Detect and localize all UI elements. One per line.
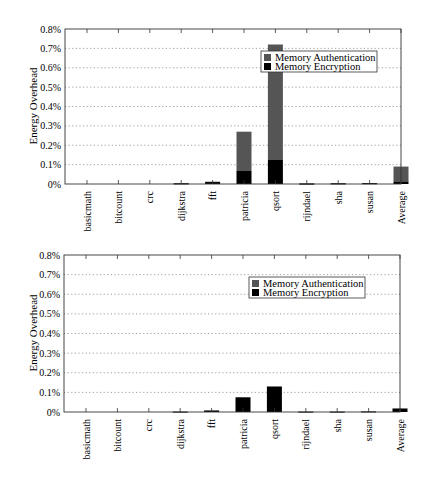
x-category-label: sha bbox=[332, 418, 343, 432]
x-category-label: bitcount bbox=[112, 419, 123, 452]
legend-label: Memory Encryption bbox=[263, 287, 349, 298]
x-category-label: crc bbox=[143, 418, 154, 431]
legend: Memory AuthenticationMemory Encryption bbox=[249, 277, 365, 298]
plot-bottom: 0%0.1%0.2%0.3%0.4%0.5%0.6%0.7%0.8%Energy… bbox=[27, 250, 408, 460]
y-tick-label: 0.5% bbox=[39, 308, 60, 319]
x-category-label: susan bbox=[363, 419, 374, 441]
x-category-label: qsort bbox=[269, 419, 280, 439]
x-category-label: fft bbox=[206, 419, 217, 428]
x-category-label: rijndael bbox=[300, 419, 311, 450]
y-tick-label: 0.6% bbox=[39, 289, 60, 300]
x-category-label: Average bbox=[395, 418, 406, 452]
x-category-label: dijkstra bbox=[175, 418, 186, 449]
y-tick-label: 0.8% bbox=[39, 250, 60, 261]
y-tick-label: 0% bbox=[47, 407, 60, 418]
legend-swatch-authentication bbox=[252, 280, 259, 287]
bottom-chart: 0%0.1%0.2%0.3%0.4%0.5%0.6%0.7%0.8%Energy… bbox=[0, 0, 422, 479]
x-category-label: patricia bbox=[238, 418, 249, 449]
bottom-chart-canvas: 0%0.1%0.2%0.3%0.4%0.5%0.6%0.7%0.8%Energy… bbox=[0, 0, 422, 479]
y-tick-label: 0.1% bbox=[39, 387, 60, 398]
legend-swatch-encryption bbox=[252, 289, 259, 296]
y-tick-label: 0.7% bbox=[39, 269, 60, 280]
y-tick-label: 0.4% bbox=[39, 328, 60, 339]
y-tick-label: 0.3% bbox=[39, 348, 60, 359]
x-category-label: basicmath bbox=[81, 419, 92, 460]
y-axis-title: Energy Overhead bbox=[27, 294, 39, 372]
y-tick-label: 0.2% bbox=[39, 367, 60, 378]
